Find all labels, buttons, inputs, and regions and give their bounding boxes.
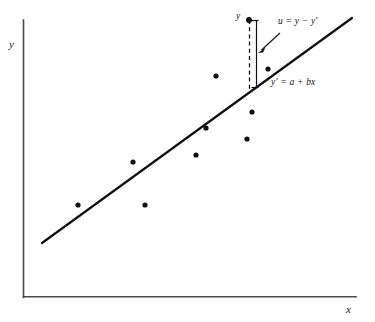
data-point [249, 109, 254, 114]
residual-leader-line [262, 33, 281, 50]
data-point [203, 125, 208, 130]
scatter-points-group [75, 17, 270, 208]
line-equation-label: y′ = a + bx [271, 78, 316, 88]
x-axis-label: x [346, 304, 351, 315]
plot-canvas [0, 0, 375, 322]
residual-equation-label: u = y − y′ [278, 17, 318, 27]
data-point [75, 202, 80, 207]
data-point [193, 152, 198, 157]
data-point-observed [246, 17, 252, 23]
data-point [213, 73, 218, 78]
data-point [142, 202, 147, 207]
regression-figure: y x y u = y − y′ y′ = a + bx [0, 0, 375, 322]
data-point [265, 66, 270, 71]
axes-group [24, 20, 357, 298]
data-point [244, 136, 249, 141]
regression-fit-line [42, 18, 352, 243]
y-axis-label: y [9, 39, 14, 50]
data-point [130, 159, 135, 164]
residual-arrow-head [258, 48, 266, 54]
observed-point-label: y [236, 12, 240, 22]
